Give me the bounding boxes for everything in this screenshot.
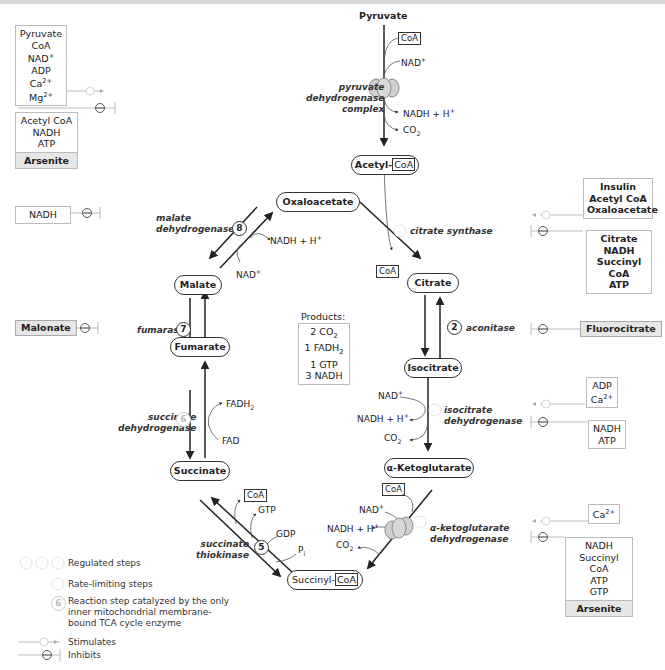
akg-dh-complex-icon [385,517,413,539]
products-box: 2 CO21 FADH21 GTP3 NADH [298,323,350,385]
node-fumarate: Fumarate [170,337,230,357]
citrate-synthase-stimulators-box: InsulinAcetyl CoAOxaloacetate [583,178,653,219]
cofactor-nadh-mdh: NADH + H+ [270,234,322,246]
malate-dh-inhibitor-box: NADH [15,206,71,224]
cofactor-coa-pdh: CoA [398,32,421,45]
pdh-stimulators-box: PyruvateCoANAD+ADPCa2+Mg2+ [15,25,67,106]
succinate-dh-inhibitor-malonate: Malonate [15,320,77,336]
enzyme-isocitrate-dh: isocitratedehydrogenase [444,405,522,427]
cofactor-gdp: GDP [276,529,295,539]
isocitrate-dh-inhibitors-box: NADHATP [588,420,626,449]
step-7-badge: 7 [176,322,191,337]
cofactor-nadh-pdh: NADH + H+ [403,107,455,119]
cofactor-nad-mdh: NAD+ [236,268,261,280]
legend-regulated: Regulated steps [68,558,141,569]
step-5-badge: 5 [254,540,269,555]
step-2-badge: 2 [447,320,462,335]
node-pyruvate: Pyruvate [359,7,407,25]
akg-dh-toxin-arsenite: Arsenite [566,600,632,617]
enzyme-malate-dh: malatedehydrogenase [156,213,234,235]
enzyme-akg-dh: α-ketoglutaratedehydrogenase [430,523,509,545]
aconitase-inhibitor-fluorocitrate: Fluorocitrate [580,321,662,337]
coa-label: CoA [392,158,415,171]
cofactor-nadh-akgdh: NADH + H+ [327,522,379,534]
node-succinate: Succinate [170,461,230,481]
cofactor-nadh-idh: NADH + H+ [357,412,409,424]
node-acetyl-coa: Acetyl-CoA [351,155,419,175]
cofactor-co2-pdh: CO2 [403,125,420,137]
step-8-badge: 8 [232,221,247,236]
enzyme-aconitase: aconitase [466,323,515,334]
node-alpha-ketoglutarate: α-Ketoglutarate [384,458,474,478]
pdh-toxin-arsenite: Arsenite [16,152,77,169]
cofactor-co2-akgdh: CO2 [336,540,353,552]
cofactor-coa-cs: CoA [376,265,399,278]
cofactor-fad: FAD [222,436,239,446]
step-6-badge: 6 [176,412,191,427]
products-title: Products: [301,311,345,322]
isocitrate-dh-stimulators-box: ADPCa2+ [586,377,618,408]
legend-membrane-enzyme: Reaction step catalyzed by the onlyinner… [68,596,229,629]
cofactor-pi: Pi [298,545,305,557]
legend-stimulates: Stimulates [68,637,116,648]
cofactor-nad-akgdh: NAD+ [359,503,384,515]
succinyl-label: Succinyl- [292,574,335,585]
node-isocitrate: Isocitrate [404,358,462,378]
cofactor-gtp: GTP [258,505,276,515]
citrate-synthase-inhibitors-box: CitrateNADHSuccinyl CoAATP [586,230,652,294]
akg-dh-stimulators-box: Ca2+ [588,504,620,524]
coa-label: CoA [335,573,358,586]
cofactor-nad-idh: NAD+ [378,389,403,401]
node-succinyl-coa: Succinyl-CoA [287,570,363,590]
enzyme-pdh: pyruvatedehydrogenasecomplex [306,82,384,115]
cofactor-coa-stk: CoA [244,489,267,502]
cofactor-fadh2: FADH2 [226,399,254,411]
legend-rate-limiting: Rate-limiting steps [68,579,153,590]
legend-inhibits: Inhibits [68,650,101,661]
akg-dh-inhibitors-box: NADHSuccinyl CoAATPGTPArsenite [565,537,633,617]
node-oxaloacetate: Oxaloacetate [276,192,360,212]
cofactor-co2-idh: CO2 [384,433,401,445]
cofactor-coa-akgdh: CoA [382,483,405,496]
acetyl-label: Acetyl- [355,159,392,170]
cofactor-nad-pdh: NAD+ [401,56,426,68]
pdh-inhibitors-box: Acetyl CoANADHATPArsenite [15,112,78,169]
enzyme-citrate-synthase: citrate synthase [410,226,493,237]
enzyme-succinate-thiokinase: succinatethiokinase [196,539,249,561]
legend-step-6-badge: 6 [51,596,66,611]
node-citrate: Citrate [407,273,459,293]
node-malate: Malate [174,275,222,295]
